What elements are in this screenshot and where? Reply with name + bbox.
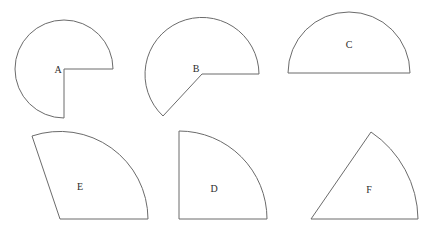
shape-outline-b[interactable] [145, 17, 259, 116]
shape-outline-f[interactable] [311, 132, 418, 219]
shape-label-d: D [210, 183, 217, 194]
shape-outline-a[interactable] [15, 20, 113, 118]
shape-a[interactable]: A [15, 20, 113, 118]
shape-label-c: C [346, 39, 353, 50]
figure-canvas: ABCEDF [0, 0, 438, 239]
shape-b[interactable]: B [145, 17, 259, 116]
shape-d[interactable]: D [179, 131, 267, 219]
shape-label-a: A [54, 64, 62, 75]
shape-outline-d[interactable] [179, 131, 267, 219]
shape-label-e: E [77, 181, 83, 192]
shape-e[interactable]: E [32, 131, 148, 219]
shape-c[interactable]: C [288, 12, 410, 73]
shape-f[interactable]: F [311, 132, 418, 219]
shape-label-f: F [366, 184, 372, 195]
shape-outline-e[interactable] [32, 131, 148, 219]
shape-label-b: B [193, 63, 200, 74]
shapes-diagram: ABCEDF [0, 0, 438, 239]
